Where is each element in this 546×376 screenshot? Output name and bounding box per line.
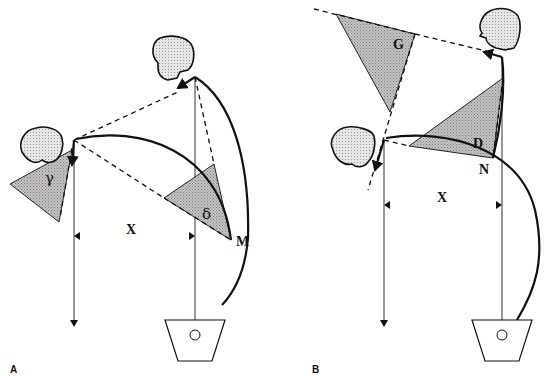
panel-label-b: B xyxy=(312,364,319,375)
bucket-ring-icon xyxy=(190,330,200,340)
bucket-ring-icon xyxy=(497,330,507,340)
arrow-upper-head xyxy=(178,77,195,88)
arrow-upper-head xyxy=(484,52,502,57)
label-point-m: M xyxy=(236,234,249,249)
head-upper-icon xyxy=(480,9,520,50)
label-gamma: γ xyxy=(45,169,54,187)
label-d: D xyxy=(473,136,483,151)
figure-canvas: γ δ M X A xyxy=(0,0,546,376)
measure-marker-right xyxy=(189,232,195,240)
label-point-n: N xyxy=(479,162,489,177)
panel-b: G D N X B xyxy=(312,9,539,375)
dashed-line-lower xyxy=(74,140,164,198)
head-lower-icon xyxy=(331,127,374,167)
head-upper-icon xyxy=(153,36,194,80)
label-delta: δ xyxy=(202,205,211,223)
label-distance-x-b: X xyxy=(437,190,447,205)
label-g: G xyxy=(393,37,404,52)
measure-marker-right xyxy=(496,201,502,209)
measure-marker-left xyxy=(74,232,80,240)
arc-lower xyxy=(386,136,539,320)
head-lower-icon xyxy=(21,127,63,163)
measure-marker-left xyxy=(384,201,390,209)
label-distance-x-a: X xyxy=(126,222,136,237)
dashed-line-lower xyxy=(384,140,409,146)
arrow-lower-head xyxy=(375,140,384,170)
dashed-line-upper xyxy=(74,91,180,140)
dashed-line-upper xyxy=(415,34,490,52)
panel-label-a: A xyxy=(10,364,17,375)
panel-a: γ δ M X A xyxy=(10,36,249,375)
angle-g-triangle xyxy=(336,14,415,112)
angle-d-triangle xyxy=(409,78,503,158)
